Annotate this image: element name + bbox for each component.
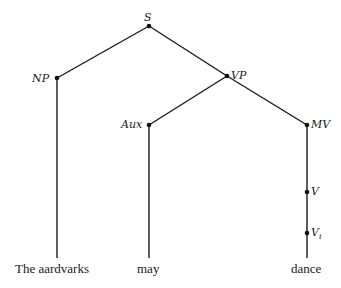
node-dot-vp	[225, 74, 230, 79]
word-may: may	[137, 262, 159, 276]
node-label-aux: Aux	[121, 119, 142, 131]
node-dot-np	[55, 76, 60, 81]
node-dot-aux	[147, 123, 152, 128]
node-label-np: NP	[32, 73, 49, 85]
node-dot-mv	[305, 123, 310, 128]
node-label-vp: VP	[231, 70, 246, 82]
tree-edges	[0, 0, 341, 288]
node-label-v: V	[311, 186, 319, 198]
word-the-aardvarks: The aardvarks	[15, 262, 89, 276]
node-dot-v	[305, 190, 310, 195]
node-dot-s	[147, 24, 152, 29]
node-dot-vi	[305, 231, 310, 236]
syntax-tree-diagram: S NP VP Aux MV V Vi The aardvarks may da…	[0, 0, 341, 288]
word-dance: dance	[291, 262, 321, 276]
node-label-vi: Vi	[311, 227, 322, 243]
node-label-mv: MV	[311, 119, 330, 131]
node-label-s: S	[144, 12, 152, 24]
